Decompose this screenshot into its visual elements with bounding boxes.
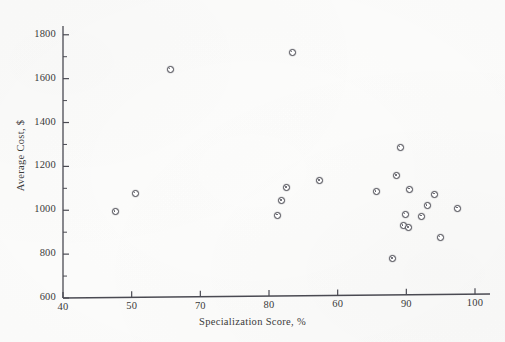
data-point-center [408, 188, 410, 190]
data-point [431, 191, 438, 198]
tick-marks [63, 35, 475, 298]
y-tick-label: 1600 [8, 72, 56, 83]
data-point-center [399, 146, 401, 148]
data-point-center [439, 236, 441, 238]
data-point [289, 49, 296, 56]
data-point-center [114, 210, 116, 212]
data-point-center [395, 174, 397, 176]
data-point-center [291, 51, 293, 53]
data-point-center [391, 257, 393, 259]
data-point-center [456, 207, 458, 209]
x-tick-label: 100 [455, 297, 495, 308]
data-point-center [407, 226, 409, 228]
data-point [112, 208, 119, 215]
data-point [167, 66, 174, 73]
data-point-center [433, 193, 435, 195]
data-point-center [426, 204, 428, 206]
data-point [132, 190, 139, 197]
data-point-center [318, 179, 320, 181]
x-tick-label: 50 [112, 300, 152, 311]
data-point [373, 188, 380, 195]
data-point [397, 144, 404, 151]
data-point-center [134, 192, 136, 194]
x-tick-label: 40 [43, 301, 83, 312]
y-tick-label: 1800 [8, 28, 56, 39]
data-point-center [404, 213, 406, 215]
data-point-center [375, 190, 377, 192]
x-tick-label: 80 [249, 299, 289, 310]
plot-area: 60080010001200140016001800 4050708060901… [0, 0, 505, 342]
y-tick-label: 800 [8, 247, 56, 258]
y-axis-title: Average Cost, $ [15, 96, 26, 216]
data-point [454, 205, 461, 212]
x-tick-label: 90 [386, 298, 426, 309]
x-tick-label: 60 [318, 298, 358, 309]
data-point [418, 213, 425, 220]
data-point-center [276, 214, 278, 216]
data-point [274, 212, 281, 219]
x-axis-title: Specialization Score, % [0, 316, 505, 327]
x-tick-label: 70 [180, 300, 220, 311]
data-point [437, 234, 444, 241]
data-point-center [402, 224, 404, 226]
data-point-center [169, 68, 171, 70]
data-point-center [420, 215, 422, 217]
data-point-center [280, 199, 282, 201]
axis-lines [0, 0, 505, 342]
scatter-plot-figure: 60080010001200140016001800 4050708060901… [0, 0, 505, 342]
data-point-center [285, 186, 287, 188]
data-point [402, 211, 409, 218]
